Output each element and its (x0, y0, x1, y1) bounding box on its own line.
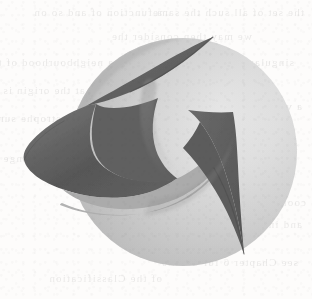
surface-figure (0, 0, 312, 299)
scanned-page: the set of all such the samea function o… (0, 0, 312, 299)
